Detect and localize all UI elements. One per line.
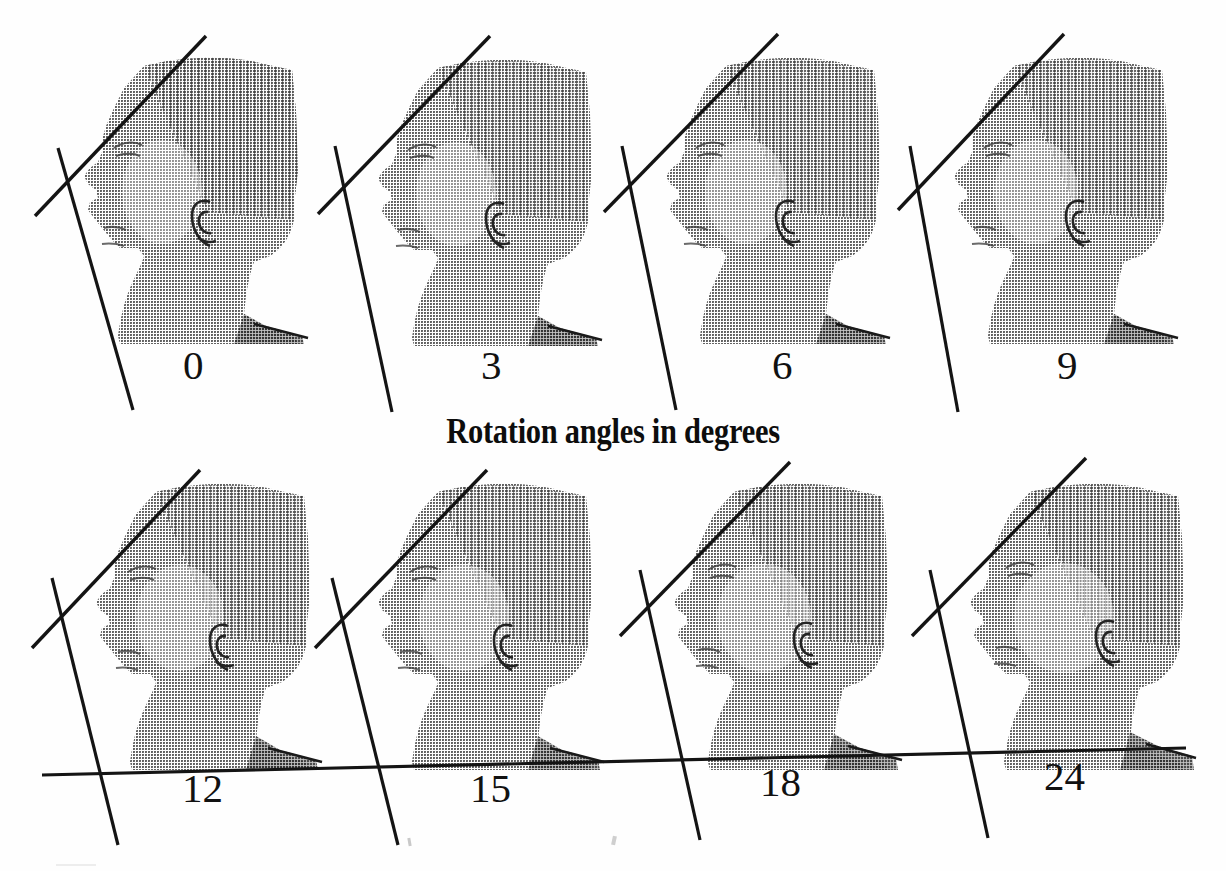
forehead-reference-line-15 (315, 470, 487, 648)
facial-profile-line-9 (910, 146, 958, 412)
angle-label-15: 15 (470, 768, 511, 809)
head-render-3 (378, 60, 602, 346)
angle-label-9: 9 (1057, 345, 1078, 386)
rotation-angles-figure: Rotation angles in degrees 0 3 6 9 12 15… (0, 0, 1226, 871)
facial-profile-line-3 (335, 146, 392, 412)
facial-profile-line-24 (930, 570, 988, 838)
head-render-18 (674, 484, 902, 770)
angle-label-12: 12 (182, 768, 223, 809)
head-render-15 (378, 484, 604, 770)
facial-profile-line-12 (52, 578, 118, 845)
angle-label-6: 6 (772, 345, 793, 386)
scan-speck (56, 864, 96, 866)
figure-caption: Rotation angles in degrees (80, 412, 1147, 452)
facial-profile-line-0 (58, 148, 133, 410)
head-render-6 (666, 58, 890, 344)
forehead-reference-line-9 (898, 34, 1064, 210)
head-render-9 (954, 58, 1178, 344)
forehead-reference-line-6 (604, 34, 778, 212)
head-render-12 (96, 484, 322, 770)
head-render-0 (84, 58, 308, 344)
scan-speck (611, 836, 617, 846)
facial-profile-line-18 (640, 570, 700, 840)
angle-label-3: 3 (481, 345, 502, 386)
angle-label-18: 18 (760, 762, 801, 803)
head-render-24 (970, 484, 1196, 770)
angle-label-24: 24 (1044, 756, 1085, 797)
forehead-reference-line-12 (32, 470, 200, 648)
facial-profile-line-15 (332, 578, 398, 845)
scan-speck (407, 838, 411, 846)
forehead-reference-line-0 (35, 36, 206, 216)
forehead-reference-line-18 (620, 462, 790, 636)
forehead-reference-line-24 (912, 458, 1086, 636)
angle-label-0: 0 (183, 345, 204, 386)
facial-profile-line-6 (622, 146, 676, 410)
forehead-reference-line-3 (318, 36, 490, 214)
